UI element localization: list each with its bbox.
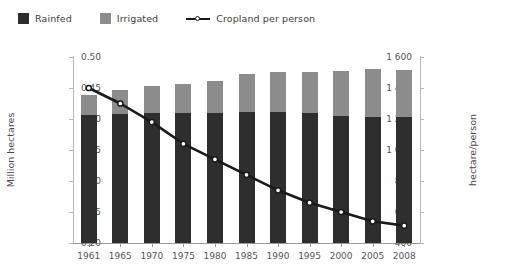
bar-segment-irrigated[interactable]: [207, 81, 223, 113]
bar-segment-rainfed[interactable]: [396, 117, 412, 243]
bar-segment-irrigated[interactable]: [81, 95, 97, 115]
right-axis-tick: [420, 57, 424, 58]
bar-segment-irrigated[interactable]: [396, 70, 412, 117]
bar-segment-rainfed[interactable]: [207, 113, 223, 243]
right-axis-tick: [420, 212, 424, 213]
bar-segment-rainfed[interactable]: [365, 117, 381, 243]
left-axis-tick: [69, 150, 73, 151]
bar-group[interactable]: [175, 84, 191, 243]
x-axis-tick-label: 1985: [235, 251, 258, 261]
right-axis-tick: [420, 119, 424, 120]
bar-group[interactable]: [302, 72, 318, 243]
x-axis-tick: [120, 243, 121, 247]
x-axis-tick-label: 1995: [298, 251, 321, 261]
bar-segment-irrigated[interactable]: [175, 84, 191, 113]
bar-segment-irrigated[interactable]: [333, 71, 349, 116]
bar-segment-irrigated[interactable]: [302, 72, 318, 113]
x-axis-tick: [373, 243, 374, 247]
right-axis-tick-label: 0.45: [81, 83, 101, 93]
legend-label-cropland-per-person: Cropland per person: [216, 13, 315, 24]
bar-group[interactable]: [112, 90, 128, 243]
left-axis-tick: [69, 212, 73, 213]
x-axis-tick: [89, 243, 90, 247]
bar-segment-rainfed[interactable]: [270, 112, 286, 243]
left-axis-tick: [69, 119, 73, 120]
x-axis-tick-label: 1961: [77, 251, 100, 261]
x-axis-tick-label: 1990: [267, 251, 290, 261]
x-axis-tick-label: 1965: [109, 251, 132, 261]
left-axis-tick: [69, 181, 73, 182]
right-axis-tick: [420, 181, 424, 182]
x-axis-tick: [341, 243, 342, 247]
right-axis-title: hectare/person: [467, 114, 478, 186]
x-axis-tick-label: 1975: [172, 251, 195, 261]
left-axis-title: Million hectares: [5, 113, 16, 188]
bar-segment-rainfed[interactable]: [333, 116, 349, 243]
bar-segment-irrigated[interactable]: [112, 90, 128, 113]
right-axis-tick: [420, 88, 424, 89]
line-marker-icon: [186, 13, 210, 24]
irrigated-swatch-icon: [100, 13, 111, 24]
bar-group[interactable]: [270, 72, 286, 243]
plot-area: 4006008001 0001 2001 4001 6000.200.250.3…: [73, 57, 420, 243]
legend-label-irrigated: Irrigated: [117, 13, 158, 24]
bar-segment-irrigated[interactable]: [144, 86, 160, 113]
left-axis-tick: [69, 88, 73, 89]
x-axis-tick: [278, 243, 279, 247]
bar-group[interactable]: [144, 86, 160, 243]
bar-segment-rainfed[interactable]: [175, 113, 191, 243]
x-axis-tick: [215, 243, 216, 247]
legend-item-cropland-per-person: Cropland per person: [186, 13, 315, 24]
bar-segment-rainfed[interactable]: [239, 112, 255, 243]
left-axis-tick-label: 1 600: [386, 52, 412, 62]
x-axis-tick-label: 1980: [204, 251, 227, 261]
bar-group[interactable]: [239, 74, 255, 243]
x-axis-tick: [183, 243, 184, 247]
bar-segment-rainfed[interactable]: [302, 113, 318, 243]
legend-label-rainfed: Rainfed: [35, 13, 72, 24]
x-axis-tick: [404, 243, 405, 247]
legend-item-irrigated: Irrigated: [100, 13, 158, 24]
x-axis-tick-label: 2005: [361, 251, 384, 261]
bar-group[interactable]: [396, 70, 412, 243]
bar-group[interactable]: [365, 69, 381, 243]
bar-segment-irrigated[interactable]: [239, 74, 255, 112]
left-axis-tick: [69, 57, 73, 58]
bar-segment-rainfed[interactable]: [112, 114, 128, 243]
right-axis-tick: [420, 243, 424, 244]
bar-segment-irrigated[interactable]: [270, 72, 286, 112]
bar-group[interactable]: [81, 95, 97, 243]
x-axis-tick: [152, 243, 153, 247]
x-axis-tick-label: 1970: [140, 251, 163, 261]
right-axis-tick: [420, 150, 424, 151]
rainfed-swatch-icon: [18, 13, 29, 24]
left-axis-tick: [69, 243, 73, 244]
x-axis-tick-label: 2000: [330, 251, 353, 261]
x-axis-tick: [247, 243, 248, 247]
right-axis-tick-label: 0.50: [81, 52, 101, 62]
bar-group[interactable]: [207, 81, 223, 243]
chart-legend: Rainfed Irrigated Cropland per person: [18, 13, 315, 24]
legend-item-rainfed: Rainfed: [18, 13, 72, 24]
bar-segment-irrigated[interactable]: [365, 69, 381, 117]
x-axis-tick-label: 2008: [393, 251, 416, 261]
bar-group[interactable]: [333, 71, 349, 243]
bar-segment-rainfed[interactable]: [81, 115, 97, 243]
bar-segment-rainfed[interactable]: [144, 113, 160, 243]
x-axis-tick: [310, 243, 311, 247]
